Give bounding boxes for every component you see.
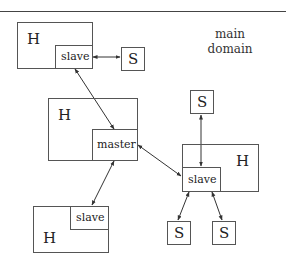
host-label: H [58, 108, 71, 123]
slave-label: slave [76, 212, 104, 223]
sensor-label: S [174, 226, 184, 241]
sensor-box-top: S [121, 47, 145, 71]
slave-box-top-left: slave [55, 45, 93, 69]
sensor-box-bottom-1: S [167, 221, 191, 245]
sensor-box-right-top: S [190, 90, 214, 114]
slave-label: slave [188, 174, 216, 185]
sensor-label: S [219, 226, 229, 241]
slave-box-bottom-left: slave [70, 206, 109, 230]
host-label: H [43, 231, 56, 246]
sensor-label: S [128, 52, 138, 67]
slave-box-right: slave [182, 167, 221, 192]
master-label: master [97, 139, 136, 150]
slave-label: slave [61, 51, 89, 62]
sensor-box-bottom-2: S [212, 221, 236, 245]
host-label: H [27, 32, 40, 47]
sensor-label: S [197, 95, 207, 110]
host-label: H [236, 154, 249, 169]
master-box: master [92, 129, 138, 161]
